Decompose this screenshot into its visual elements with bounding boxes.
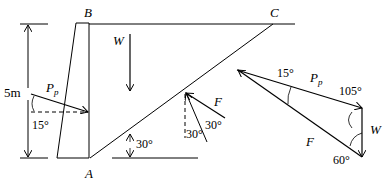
triangle-pp-label: Pp [309, 70, 323, 87]
triangle-angle-arc-right [349, 112, 353, 128]
pp-force-arrow [31, 94, 88, 112]
triangle-f-label: F [305, 134, 315, 149]
retaining-wall-diagram: B C A 5m Pp 15° W 30° F 30° 30° 15° Pp 1… [0, 0, 388, 183]
f-label: F [213, 94, 223, 109]
pp-label: Pp [45, 80, 59, 97]
triangle-angle-arc-bottom [350, 133, 362, 146]
triangle-angle-right: 105° [339, 84, 362, 98]
slope-angle-label: 30° [136, 137, 153, 151]
label-A: A [84, 166, 93, 181]
label-B: B [84, 5, 92, 20]
retaining-wall [57, 23, 89, 158]
f-angle-label-2: 30° [205, 118, 222, 132]
height-label: 5m [4, 85, 21, 100]
triangle-angle-arc-top [288, 87, 291, 104]
weight-label: W [113, 33, 125, 48]
triangle-w-label: W [370, 122, 382, 137]
triangle-angle-top: 15° [277, 66, 294, 80]
pp-angle-arc [32, 96, 34, 111]
f-angle-label-1: 30° [186, 127, 203, 141]
pp-angle-label: 15° [32, 118, 49, 132]
triangle-angle-bottom: 60° [333, 153, 350, 167]
label-C: C [270, 5, 279, 20]
